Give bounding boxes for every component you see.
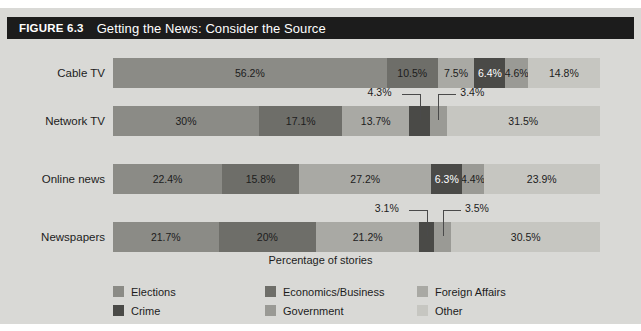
- figure-title-bar: FIGURE 6.3 Getting the News: Consider th…: [7, 17, 634, 39]
- bar-segment-other: 31.5%: [447, 106, 600, 136]
- row-label-network-tv: Network TV: [0, 106, 113, 136]
- legend-label: Other: [435, 305, 463, 317]
- stacked-bar: 22.4%15.8%27.2%6.3%4.4%23.9%: [113, 164, 600, 194]
- bar-segment-elections: 22.4%: [113, 164, 222, 194]
- bar-segment-foreign-affairs: 13.7%: [342, 106, 409, 136]
- row-label-cable-tv: Cable TV: [0, 58, 113, 88]
- bar-segment-elections: 30%: [113, 106, 259, 136]
- row-label-text: Online news: [42, 173, 105, 185]
- bar-segment-foreign-affairs: 21.2%: [316, 222, 419, 252]
- row-label-online-news: Online news: [0, 164, 113, 194]
- bar-segment-government: 4.4%: [462, 164, 483, 194]
- callout-leader-line: [409, 210, 427, 211]
- legend-label: Elections: [131, 286, 176, 298]
- legend-swatch: [417, 305, 428, 316]
- row-label-text: Cable TV: [57, 67, 105, 79]
- bar-segment-elections: 21.7%: [113, 222, 219, 252]
- callout-leader-line: [438, 94, 439, 120]
- callout-leader-line: [438, 94, 456, 95]
- bar-segment-other: 30.5%: [451, 222, 600, 252]
- figure-title: Getting the News: Consider the Source: [97, 21, 326, 36]
- stacked-bar: 21.7%20%21.2%30.5%: [113, 222, 600, 252]
- chart-legend: ElectionsEconomics/BusinessForeign Affai…: [113, 282, 573, 320]
- row-label-newspapers: Newspapers: [0, 222, 113, 252]
- legend-swatch: [265, 305, 276, 316]
- legend-swatch: [113, 286, 124, 297]
- callout-leader-line: [402, 94, 420, 95]
- row-label-text: Network TV: [45, 115, 105, 127]
- x-axis-label: Percentage of stories: [0, 254, 641, 266]
- callout-label: 4.3%: [368, 86, 392, 98]
- bar-segment-crime: 6.4%: [474, 58, 505, 88]
- legend-label: Government: [283, 305, 344, 317]
- legend-item-foreign-affairs: Foreign Affairs: [417, 286, 569, 298]
- bar-segment-economics-business: 15.8%: [222, 164, 299, 194]
- figure-container: FIGURE 6.3 Getting the News: Consider th…: [0, 8, 641, 324]
- row-label-text: Newspapers: [41, 231, 105, 243]
- legend-swatch: [417, 286, 428, 297]
- callout-group: 4.3%3.4%: [113, 86, 600, 108]
- legend-item-other: Other: [417, 305, 569, 317]
- bar-segment-other: 14.8%: [528, 58, 600, 88]
- bar-segment-economics-business: 20%: [219, 222, 316, 252]
- bar-segment-other: 23.9%: [484, 164, 600, 194]
- bar-segment-foreign-affairs: 7.5%: [438, 58, 475, 88]
- callout-leader-line: [443, 210, 461, 211]
- legend-item-elections: Elections: [113, 286, 265, 298]
- bar-segment-foreign-affairs: 27.2%: [299, 164, 431, 194]
- callout-label: 3.4%: [460, 86, 484, 98]
- bar-segment-government: 4.6%: [505, 58, 527, 88]
- bar-segment-elections: 56.2%: [113, 58, 387, 88]
- callout-group: 3.1%3.5%: [113, 202, 600, 224]
- legend-item-crime: Crime: [113, 305, 265, 317]
- legend-label: Foreign Affairs: [435, 286, 506, 298]
- callout-label: 3.1%: [375, 202, 399, 214]
- legend-item-government: Government: [265, 305, 417, 317]
- stacked-bar: 56.2%10.5%7.5%6.4%4.6%14.8%: [113, 58, 600, 88]
- bar-segment-crime: 6.3%: [431, 164, 462, 194]
- stacked-bar: 30%17.1%13.7%31.5%: [113, 106, 600, 136]
- figure-number: FIGURE 6.3: [19, 22, 84, 34]
- bar-segment-economics-business: 10.5%: [387, 58, 438, 88]
- legend-item-economics-business: Economics/Business: [265, 286, 417, 298]
- legend-swatch: [265, 286, 276, 297]
- legend-label: Crime: [131, 305, 160, 317]
- callout-leader-line: [420, 94, 421, 120]
- callout-leader-line: [427, 210, 428, 236]
- bar-segment-economics-business: 17.1%: [259, 106, 342, 136]
- callout-leader-line: [443, 210, 444, 236]
- chart-row: Network TV30%17.1%13.7%31.5%4.3%3.4%: [0, 106, 641, 154]
- legend-label: Economics/Business: [283, 286, 385, 298]
- legend-swatch: [113, 305, 124, 316]
- callout-label: 3.5%: [465, 202, 489, 214]
